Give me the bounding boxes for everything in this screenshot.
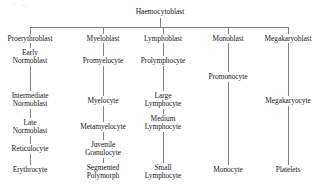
node-monocyte: Monocyte — [213, 166, 243, 174]
node-myeloblast: Myeloblast — [87, 35, 120, 43]
scan-artifact — [4, 1, 30, 10]
node-prolymphocyte: Prolymphocyte — [141, 57, 186, 65]
node-large-lymphocyte: Large Lymphocyte — [145, 92, 181, 108]
node-megakaryocyte: Megakaryocyte — [265, 97, 310, 105]
node-segmented-polymorph: Segmented Polymorph — [87, 164, 119, 180]
node-haemocytoblast: Haemocytoblast — [136, 8, 185, 16]
node-promyelocyte: Promyelocyte — [83, 57, 123, 65]
node-platelets: Platelets — [276, 166, 301, 174]
node-metamyelocyte: Metamyelocyte — [80, 123, 125, 131]
node-medium-lymphocyte: Medium Lymphocyte — [145, 115, 181, 131]
node-intermediate-normoblast: Intermediate Normoblast — [12, 92, 49, 108]
node-juvenile-granulocyte: Juvenile Granulocyte — [85, 141, 121, 157]
node-megakaryoblast: Megakaryoblast — [265, 35, 312, 43]
node-reticulocyte: Reticulocyte — [12, 145, 49, 153]
node-erythrocyte: Erythrocyte — [13, 166, 47, 174]
node-myelocyte: Myelocyte — [87, 97, 118, 105]
haematopoiesis-flowchart: HaemocytoblastProerythroblastEarly Normo… — [0, 0, 322, 184]
node-proerythroblast: Proerythroblast — [8, 35, 53, 43]
node-lymphoblast: Lymphoblast — [144, 35, 182, 43]
node-early-normoblast: Early Normoblast — [13, 49, 47, 65]
node-small-lymphocyte: Small Lymphocyte — [145, 164, 181, 180]
node-monoblast: Monoblast — [212, 35, 243, 43]
node-promonocyte: Promonocyte — [209, 73, 248, 81]
node-late-normoblast: Late Normoblast — [13, 119, 47, 135]
